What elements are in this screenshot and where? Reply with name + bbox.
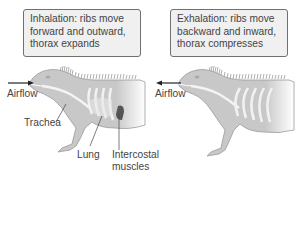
exhalation-airflow-label: Airflow <box>155 88 186 100</box>
intercostal-label-line-2: muscles <box>112 161 149 173</box>
inhalation-lizard <box>8 66 145 152</box>
exhalation-lizard <box>156 66 294 156</box>
trachea-label: Trachea <box>24 117 61 129</box>
lung-label: Lung <box>77 149 100 161</box>
airflow-out-arrow-icon <box>156 81 181 86</box>
inhalation-airflow-label: Airflow <box>7 88 38 100</box>
intercostal-label-line-1: Intercostal <box>112 149 159 161</box>
